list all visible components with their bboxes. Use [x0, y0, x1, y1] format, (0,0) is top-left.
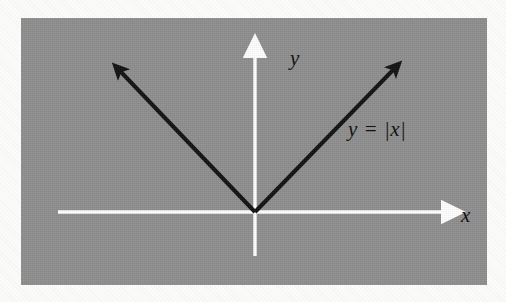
figure-root: y x y = |x| — [0, 0, 506, 302]
absolute-value-curve — [121, 70, 393, 212]
x-axis-label: x — [461, 205, 470, 226]
curve-equation-label: y = |x| — [348, 119, 406, 140]
graph-canvas — [21, 18, 487, 285]
y-axis-label: y — [290, 48, 299, 69]
coordinate-axes — [58, 54, 445, 256]
curve-right-branch — [255, 70, 393, 212]
curve-left-branch — [121, 72, 255, 212]
plot-panel: y x y = |x| — [21, 18, 487, 285]
